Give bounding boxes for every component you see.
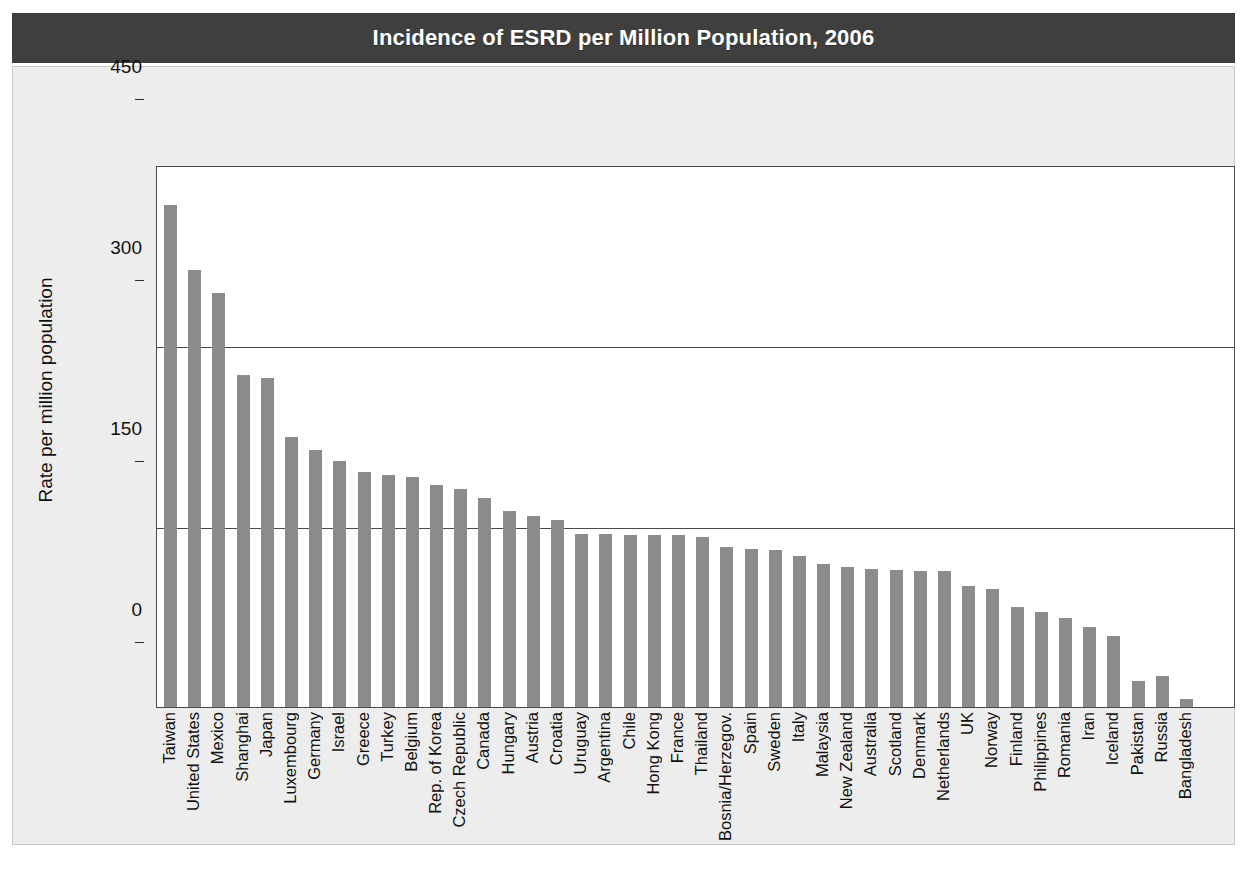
x-axis-tick-label: Netherlands bbox=[937, 712, 950, 801]
x-axis-tick-label: Uruguay bbox=[574, 712, 587, 774]
bar-slot bbox=[503, 167, 527, 707]
bar bbox=[865, 569, 878, 707]
bar-slot bbox=[478, 167, 502, 707]
bar-slot bbox=[188, 167, 212, 707]
bar-slot bbox=[624, 167, 648, 707]
bar bbox=[672, 535, 685, 707]
bar bbox=[624, 535, 637, 707]
bar-slot bbox=[890, 167, 914, 707]
bar-slot bbox=[841, 167, 865, 707]
bar-series bbox=[157, 167, 1234, 707]
bar-slot bbox=[575, 167, 599, 707]
bar-slot bbox=[865, 167, 889, 707]
x-axis-tick-label: Russia bbox=[1155, 712, 1168, 762]
bar bbox=[817, 564, 830, 707]
bar bbox=[212, 293, 225, 707]
bar bbox=[1035, 612, 1048, 707]
x-label-slot: Israel bbox=[332, 712, 356, 752]
bar bbox=[478, 498, 491, 707]
bar bbox=[696, 537, 709, 707]
bar-slot bbox=[164, 167, 188, 707]
bar bbox=[1083, 627, 1096, 707]
y-tick-mark-300 bbox=[135, 280, 144, 281]
y-axis-label: Rate per million population bbox=[35, 150, 57, 630]
bar bbox=[382, 475, 395, 707]
bar bbox=[599, 534, 612, 707]
bar-slot bbox=[986, 167, 1010, 707]
bar-slot bbox=[914, 167, 938, 707]
bar-slot bbox=[454, 167, 478, 707]
bar-slot bbox=[769, 167, 793, 707]
bar bbox=[986, 589, 999, 707]
bar bbox=[793, 556, 806, 707]
bar bbox=[938, 571, 951, 707]
x-axis-tick-label: Croatia bbox=[550, 712, 563, 765]
bar-slot bbox=[333, 167, 357, 707]
x-axis-tick-label: United States bbox=[187, 712, 200, 811]
bar-slot bbox=[212, 167, 236, 707]
x-axis-tick-label: Hungary bbox=[502, 712, 515, 774]
bar-slot bbox=[1132, 167, 1156, 707]
bar bbox=[1107, 636, 1120, 707]
x-axis-tick-label: Austria bbox=[526, 712, 539, 763]
y-tick-label-450: 450 bbox=[22, 56, 142, 78]
x-label-slot: Argentina bbox=[598, 712, 622, 783]
bar-slot bbox=[599, 167, 623, 707]
x-axis-tick-label: Greece bbox=[357, 712, 370, 766]
x-axis-tick-label: Taiwan bbox=[163, 712, 176, 763]
bar bbox=[648, 535, 661, 707]
x-axis-tick-label: Turkey bbox=[381, 712, 394, 762]
x-axis-tick-label: Rep. of Korea bbox=[429, 712, 442, 814]
x-axis-tick-label: Bangladesh bbox=[1179, 712, 1192, 799]
plot-area bbox=[156, 166, 1235, 708]
bar bbox=[164, 205, 177, 707]
x-label-slot: Iceland bbox=[1106, 712, 1130, 765]
x-axis-tick-label: Romania bbox=[1058, 712, 1071, 778]
bar bbox=[430, 485, 443, 707]
bar bbox=[261, 378, 274, 707]
x-axis-tick-label: UK bbox=[961, 712, 974, 735]
x-axis-tick-label: Argentina bbox=[598, 712, 611, 783]
bar-slot bbox=[696, 167, 720, 707]
bar-slot bbox=[1083, 167, 1107, 707]
bar-slot bbox=[285, 167, 309, 707]
x-axis-tick-label: Australia bbox=[864, 712, 877, 776]
bar-slot bbox=[551, 167, 575, 707]
chart-title: Incidence of ESRD per Million Population… bbox=[373, 25, 875, 51]
x-label-slot: Mexico bbox=[211, 712, 235, 764]
x-axis-tick-label: France bbox=[671, 712, 684, 763]
x-axis-tick-label: Shanghai bbox=[236, 712, 249, 782]
bar-slot bbox=[745, 167, 769, 707]
bar bbox=[962, 586, 975, 707]
bar bbox=[890, 570, 903, 707]
x-axis-tick-label: Denmark bbox=[913, 712, 926, 779]
bar bbox=[285, 437, 298, 707]
bar-slot bbox=[672, 167, 696, 707]
bar bbox=[551, 520, 564, 707]
bar-slot bbox=[382, 167, 406, 707]
x-axis-tick-label: Spain bbox=[744, 712, 757, 754]
bar-slot bbox=[261, 167, 285, 707]
bar-slot bbox=[527, 167, 551, 707]
y-tick-label-300: 300 bbox=[22, 237, 142, 259]
bar-slot bbox=[1011, 167, 1035, 707]
bar bbox=[188, 270, 201, 707]
bar bbox=[309, 450, 322, 707]
bar bbox=[575, 534, 588, 707]
chart-title-band: Incidence of ESRD per Million Population… bbox=[12, 13, 1235, 63]
x-axis-tick-label: Iceland bbox=[1106, 712, 1119, 765]
x-axis-tick-label: Norway bbox=[985, 712, 998, 768]
x-axis-tick-label: Japan bbox=[260, 712, 273, 757]
bar bbox=[1180, 699, 1193, 707]
bar bbox=[527, 516, 540, 707]
x-axis-tick-label: New Zealand bbox=[840, 712, 853, 809]
bar-slot bbox=[406, 167, 430, 707]
bar-slot bbox=[1180, 167, 1204, 707]
bar-slot bbox=[1035, 167, 1059, 707]
bar bbox=[720, 547, 733, 707]
x-axis-labels: TaiwanUnited StatesMexicoShanghaiJapanLu… bbox=[156, 712, 1235, 873]
bar bbox=[1132, 681, 1145, 707]
x-label-slot: Australia bbox=[864, 712, 888, 776]
bar-slot bbox=[358, 167, 382, 707]
x-axis-tick-label: Malaysia bbox=[816, 712, 829, 777]
